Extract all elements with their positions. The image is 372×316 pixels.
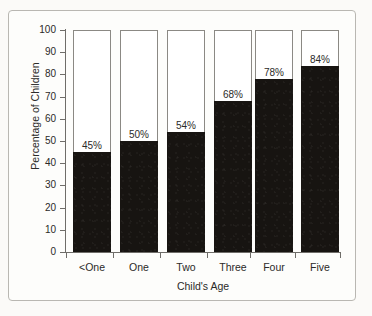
x-tick-2 bbox=[160, 253, 161, 258]
bar-group-0[interactable]: 45% bbox=[73, 30, 111, 252]
bar-group-1[interactable]: 50% bbox=[120, 30, 158, 252]
y-tick-label-0: 0 bbox=[16, 247, 56, 257]
x-tick-4 bbox=[250, 253, 251, 258]
bar-fill-0 bbox=[73, 152, 111, 252]
x-tick-0 bbox=[66, 253, 67, 258]
y-tick-10 bbox=[60, 230, 65, 231]
y-axis-line bbox=[65, 29, 66, 253]
bar-group-4[interactable]: 78% bbox=[255, 30, 293, 252]
y-tick-label-100: 100 bbox=[16, 25, 56, 35]
bar-value-label-2: 54% bbox=[167, 120, 205, 131]
bar-fill-2 bbox=[167, 132, 205, 252]
bar-fill-4 bbox=[255, 79, 293, 252]
x-tick-1 bbox=[113, 253, 114, 258]
y-tick-80 bbox=[60, 74, 65, 75]
bar-group-3[interactable]: 68% bbox=[214, 30, 252, 252]
y-tick-70 bbox=[60, 97, 65, 98]
y-tick-20 bbox=[60, 208, 65, 209]
y-tick-label-90: 90 bbox=[16, 47, 56, 57]
y-tick-label-40: 40 bbox=[16, 158, 56, 168]
x-tick-3 bbox=[207, 253, 208, 258]
y-tick-90 bbox=[60, 52, 65, 53]
bar-fill-3 bbox=[214, 101, 252, 252]
y-tick-label-30: 30 bbox=[16, 180, 56, 190]
y-tick-60 bbox=[60, 119, 65, 120]
y-tick-100 bbox=[60, 30, 65, 31]
y-tick-label-10: 10 bbox=[16, 225, 56, 235]
bar-fill-5 bbox=[301, 66, 339, 252]
y-tick-label-60: 60 bbox=[16, 114, 56, 124]
y-tick-0 bbox=[60, 252, 65, 253]
x-axis-title: Child's Age bbox=[66, 280, 340, 292]
y-tick-label-50: 50 bbox=[16, 136, 56, 146]
bar-value-label-5: 84% bbox=[301, 54, 339, 65]
y-tick-40 bbox=[60, 163, 65, 164]
bar-fill-1 bbox=[120, 141, 158, 252]
bar-group-5[interactable]: 84% bbox=[301, 30, 339, 252]
bar-value-label-3: 68% bbox=[214, 89, 252, 100]
bar-value-label-4: 78% bbox=[255, 67, 293, 78]
figure-root: Percentage of Children 100 90 80 70 60 5… bbox=[0, 0, 372, 316]
bar-value-label-0: 45% bbox=[73, 140, 111, 151]
x-tick-5 bbox=[295, 253, 296, 258]
bar-group-2[interactable]: 54% bbox=[167, 30, 205, 252]
y-tick-label-70: 70 bbox=[16, 92, 56, 102]
x-tick-6 bbox=[340, 253, 341, 258]
y-tick-label-20: 20 bbox=[16, 203, 56, 213]
x-axis-label-5: Five bbox=[290, 261, 350, 273]
x-axis-line bbox=[65, 252, 341, 253]
y-tick-30 bbox=[60, 185, 65, 186]
y-tick-label-80: 80 bbox=[16, 69, 56, 79]
bar-value-label-1: 50% bbox=[120, 129, 158, 140]
y-tick-50 bbox=[60, 141, 65, 142]
